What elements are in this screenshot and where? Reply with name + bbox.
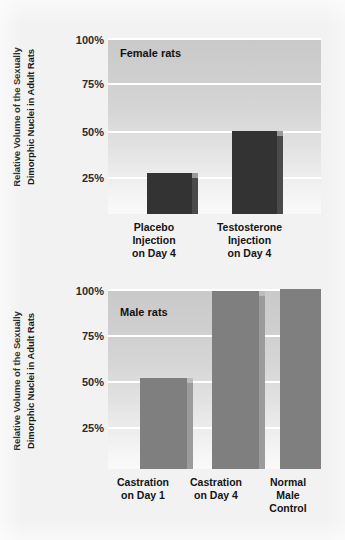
bar-top-bevel — [187, 378, 193, 383]
bar-castration-day4 — [212, 291, 265, 469]
category-label-castration-day1: Castration on Day 1 — [104, 476, 182, 502]
category-line-2: Injection — [197, 234, 302, 247]
plot-area-female: Female rats — [108, 38, 321, 214]
gridline-50 — [108, 131, 321, 133]
bar-castration-day1 — [140, 378, 193, 469]
category-line-2: Injection — [109, 234, 199, 247]
gridline-75 — [108, 83, 321, 85]
y-axis-ticks-female: 100% 75% 50% 25% — [46, 0, 104, 268]
bar-top-bevel — [259, 291, 265, 296]
y-axis-title-line2: Dimorphic Nuclei in Adult Rats — [23, 311, 37, 450]
y-axis-ticks-male: 100% 75% 50% 25% — [46, 268, 104, 540]
chart-panel-male: Relative Volume of the Sexually Dimorphi… — [0, 268, 345, 540]
category-line-2: Male — [256, 489, 320, 502]
y-tick-75: 75% — [46, 78, 104, 90]
y-tick-100: 100% — [46, 285, 104, 297]
category-label-castration-day4: Castration on Day 4 — [177, 476, 255, 502]
panel-title-female: Female rats — [120, 47, 181, 59]
y-tick-25: 25% — [46, 172, 104, 184]
bar-face — [212, 291, 259, 469]
category-line-1: Testosterone — [197, 221, 302, 234]
bar-side-3d — [259, 296, 265, 469]
bar-face — [280, 289, 321, 469]
y-tick-50: 50% — [46, 126, 104, 138]
bar-face — [232, 131, 277, 214]
figure-root: Relative Volume of the Sexually Dimorphi… — [0, 0, 345, 540]
bar-side-3d — [192, 178, 198, 214]
bar-face — [140, 378, 187, 469]
bar-top-bevel — [192, 173, 198, 178]
y-axis-title-line1: Relative Volume of the Sexually — [10, 311, 24, 450]
y-axis-title-line2: Dimorphic Nuclei in Adult Rats — [23, 47, 37, 186]
panel-title-male: Male rats — [120, 306, 168, 318]
plot-area-male: Male rats — [108, 289, 321, 469]
bar-testosterone-injection — [232, 131, 283, 214]
bar-top-bevel — [277, 131, 283, 136]
category-line-3: on Day 4 — [109, 247, 199, 260]
category-line-2: on Day 4 — [177, 489, 255, 502]
category-label-placebo: Placebo Injection on Day 4 — [109, 221, 199, 260]
bar-side-3d — [277, 136, 283, 214]
y-tick-100: 100% — [46, 34, 104, 46]
category-label-normal-male-control: Normal Male Control — [256, 476, 320, 515]
y-tick-75: 75% — [46, 330, 104, 342]
y-axis-title-female: Relative Volume of the Sexually Dimorphi… — [0, 12, 46, 222]
category-line-1: Castration — [104, 476, 182, 489]
category-line-3: Control — [256, 502, 320, 515]
y-tick-50: 50% — [46, 376, 104, 388]
y-tick-25: 25% — [46, 422, 104, 434]
category-line-2: on Day 1 — [104, 489, 182, 502]
category-line-1: Castration — [177, 476, 255, 489]
category-label-testosterone: Testosterone Injection on Day 4 — [197, 221, 302, 260]
bar-placebo-injection — [147, 173, 198, 214]
bar-side-3d — [187, 383, 193, 469]
y-axis-title-line1: Relative Volume of the Sexually — [10, 47, 24, 186]
category-line-3: on Day 4 — [197, 247, 302, 260]
bar-face — [147, 173, 192, 214]
y-axis-title-male: Relative Volume of the Sexually Dimorphi… — [0, 278, 46, 483]
gridline-100 — [108, 38, 321, 40]
gridline-25 — [108, 177, 321, 179]
category-line-1: Normal — [256, 476, 320, 489]
chart-panel-female: Relative Volume of the Sexually Dimorphi… — [0, 0, 345, 268]
category-line-1: Placebo — [109, 221, 199, 234]
bar-normal-male-control — [280, 289, 321, 469]
